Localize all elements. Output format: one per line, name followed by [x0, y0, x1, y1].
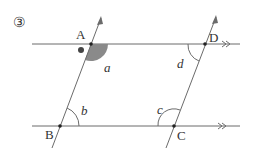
angle-marker-dot	[78, 47, 84, 53]
point-C	[172, 124, 176, 128]
label-D: D	[209, 30, 218, 45]
arrow-DC-icon	[212, 15, 218, 24]
point-B	[58, 124, 62, 128]
label-A: A	[76, 27, 86, 42]
arrow-AB-icon	[97, 16, 103, 25]
angle-b-arc	[67, 108, 79, 126]
label-B: B	[45, 127, 54, 142]
problem-number: ③	[13, 15, 26, 30]
point-D	[203, 42, 207, 46]
angle-d-arc	[188, 44, 199, 61]
angle-label-d: d	[177, 56, 184, 71]
angle-label-c: c	[157, 102, 163, 117]
angle-label-a: a	[104, 60, 111, 75]
parallel-lines-diagram: ③ A B C D a b c d	[0, 0, 254, 152]
label-C: C	[177, 128, 186, 143]
angle-label-b: b	[81, 103, 88, 118]
point-A	[89, 42, 93, 46]
